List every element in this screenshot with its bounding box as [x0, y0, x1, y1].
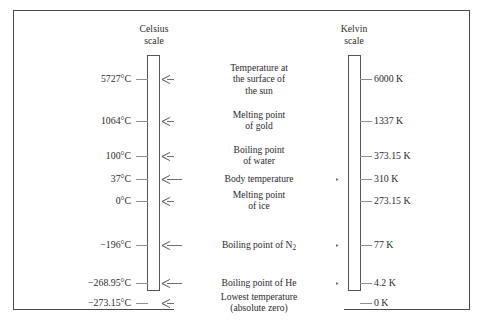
temperature-scale-figure: Celsius scale Kelvin scale 5727°C6000 KT…	[13, 10, 470, 310]
kelvin-tick-mark	[360, 121, 372, 122]
kelvin-tick-mark	[360, 179, 372, 180]
celsius-value: −196°C	[100, 240, 131, 250]
arrow-head-left-icon	[162, 75, 170, 83]
celsius-tick-mark	[136, 303, 148, 304]
celsius-value: −273.15°C	[88, 298, 131, 308]
kelvin-value: 1337 K	[374, 116, 403, 126]
kelvin-tick-mark	[360, 79, 372, 80]
arrow-head-left-icon	[162, 197, 170, 205]
kelvin-value: 373.15 K	[374, 151, 410, 161]
kelvin-value: 310 K	[374, 174, 398, 184]
row-caption: Lowest temperature (absolute zero)	[174, 291, 344, 314]
arrow-head-left-icon	[162, 299, 170, 307]
kelvin-value: 4.2 K	[374, 278, 396, 288]
celsius-scale-header: Celsius scale	[114, 23, 194, 46]
kelvin-value: 0 K	[374, 298, 388, 308]
celsius-value: 1064°C	[101, 116, 131, 126]
kelvin-tick-mark	[360, 245, 372, 246]
row-caption: Boiling point of water	[174, 144, 344, 167]
kelvin-value: 273.15 K	[374, 196, 410, 206]
celsius-tick-mark	[136, 179, 148, 180]
celsius-value: 5727°C	[101, 74, 131, 84]
celsius-tick-mark	[136, 283, 148, 284]
kelvin-scale-header: Kelvin scale	[314, 23, 394, 46]
celsius-value: −268.95°C	[88, 278, 131, 288]
row-caption: Body temperature	[182, 173, 336, 184]
celsius-value: 37°C	[111, 174, 131, 184]
celsius-tick-mark	[136, 245, 148, 246]
celsius-value: 100°C	[106, 151, 131, 161]
celsius-tick-mark	[136, 79, 148, 80]
kelvin-tick-mark	[360, 201, 372, 202]
celsius-tick-mark	[136, 201, 148, 202]
formula-subscript: 2	[293, 244, 297, 252]
arrow-head-left-icon	[162, 241, 170, 249]
kelvin-tick-mark	[360, 156, 372, 157]
arrow-head-left-icon	[162, 175, 170, 183]
kelvin-value: 77 K	[374, 240, 393, 250]
celsius-tick-mark	[136, 156, 148, 157]
arrow-head-left-icon	[162, 279, 170, 287]
row-caption: Boiling point of N2	[182, 239, 336, 254]
row-caption: Boiling point of He	[182, 277, 336, 288]
celsius-scale-bar	[147, 55, 160, 291]
kelvin-tick-mark	[360, 303, 372, 304]
row-caption: Melting point of gold	[174, 109, 344, 132]
kelvin-scale-bar	[348, 55, 361, 291]
celsius-value: 0°C	[116, 196, 131, 206]
kelvin-tick-mark	[360, 283, 372, 284]
arrow-head-left-icon	[162, 152, 170, 160]
kelvin-value: 6000 K	[374, 74, 403, 84]
row-caption: Melting point of ice	[174, 189, 344, 212]
celsius-tick-mark	[136, 121, 148, 122]
row-caption: Temperature at the surface of the sun	[174, 62, 344, 96]
arrow-head-left-icon	[162, 117, 170, 125]
